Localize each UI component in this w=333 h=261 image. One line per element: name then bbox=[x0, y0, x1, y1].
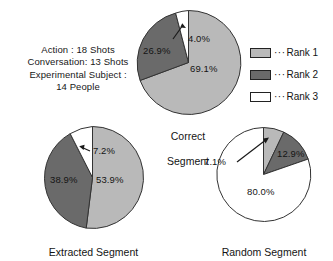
slice-label-rank2: 12.9% bbox=[277, 148, 304, 159]
legend-swatch-rank3-icon bbox=[250, 92, 271, 102]
slice-label-rank3: 4.0% bbox=[188, 33, 210, 44]
slice-label-rank3: 7.2% bbox=[93, 145, 115, 156]
slice-label-rank1: 53.9% bbox=[96, 174, 123, 185]
pie-chart-figure: Action : 18 Shots Conversation: 13 Shots… bbox=[0, 0, 333, 261]
legend-label-rank2: Rank 2 bbox=[287, 70, 319, 80]
info-line-people: 14 People bbox=[8, 81, 148, 93]
pie-title-random-text: Random Segment bbox=[222, 246, 307, 258]
pie-title-extracted-text: Extracted Segment bbox=[49, 246, 138, 258]
slice-label-rank2: 26.9% bbox=[143, 45, 170, 56]
legend-item-rank1: ··· Rank 1 bbox=[250, 45, 318, 61]
pie-correct-segment: 69.1% 26.9% 4.0% bbox=[135, 9, 242, 116]
pie-title-random-segment: Random Segment bbox=[203, 233, 325, 258]
legend-dots-rank3: ··· bbox=[274, 92, 286, 102]
legend-item-rank2: ··· Rank 2 bbox=[250, 67, 318, 83]
info-line-conversation: Conversation: 13 Shots bbox=[8, 56, 148, 68]
legend-swatch-rank1-icon bbox=[250, 48, 271, 58]
legend-item-rank3: ··· Rank 3 bbox=[250, 89, 318, 105]
info-line-action: Action : 18 Shots bbox=[8, 44, 148, 56]
legend-swatch-rank2-icon bbox=[250, 70, 271, 80]
legend-dots-rank1: ··· bbox=[274, 48, 286, 58]
info-line-subject: Experimental Subject : bbox=[8, 69, 148, 81]
slice-label-rank3: 80.0% bbox=[247, 186, 274, 197]
pie-random-segment: 80.0% 12.9% 7.1% bbox=[215, 126, 312, 223]
slice-label-rank2: 38.9% bbox=[50, 174, 77, 185]
legend-dots-rank2: ··· bbox=[274, 70, 286, 80]
slice-label-rank1: 69.1% bbox=[190, 63, 217, 74]
slice-label-rank1: 7.1% bbox=[204, 156, 226, 167]
experiment-info-block: Action : 18 Shots Conversation: 13 Shots… bbox=[8, 44, 148, 94]
legend-label-rank3: Rank 3 bbox=[287, 92, 319, 102]
pie-extracted-segment: 53.9% 38.9% 7.2% bbox=[40, 125, 145, 230]
legend-label-rank1: Rank 1 bbox=[287, 48, 319, 58]
pie-title-extracted-segment: Extracted Segment bbox=[31, 233, 156, 258]
legend: ··· Rank 1 ··· Rank 2 ··· Rank 3 bbox=[250, 45, 318, 111]
